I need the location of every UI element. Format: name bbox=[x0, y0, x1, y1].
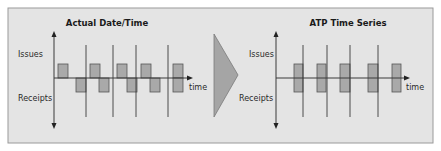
left-receipts-label: Receipts bbox=[18, 94, 52, 103]
left-title: Actual Date/Time bbox=[66, 18, 149, 28]
receipt-bar bbox=[150, 78, 160, 92]
receipt-bar bbox=[173, 78, 183, 92]
issue-bar bbox=[141, 64, 151, 78]
right-issues-label: Issues bbox=[249, 50, 274, 59]
issue-bar bbox=[117, 64, 127, 78]
issue-bar bbox=[90, 64, 100, 78]
right-time-label: time bbox=[406, 83, 424, 92]
left-time-label: time bbox=[189, 83, 207, 92]
left-issues-label: Issues bbox=[18, 50, 43, 59]
receipt-bar bbox=[76, 78, 86, 92]
right-receipts-label: Receipts bbox=[239, 94, 273, 103]
receipt-bar bbox=[99, 78, 109, 92]
issue-bar bbox=[173, 64, 183, 78]
right-title: ATP Time Series bbox=[309, 18, 386, 28]
receipt-bar bbox=[127, 78, 137, 92]
atp-transformation-diagram: Actual Date/Time Issues Receipts time AT… bbox=[0, 0, 441, 151]
issue-bar bbox=[58, 64, 68, 78]
